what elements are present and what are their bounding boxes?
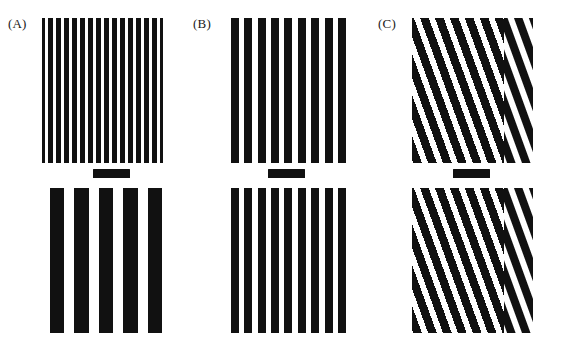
panel-a-label: (A) (8, 16, 27, 32)
panel-b-bottom-grating (227, 188, 348, 333)
panel-a-fixation-bar (93, 169, 130, 178)
panel-c-fixation-bar (453, 169, 490, 178)
panel-c-bottom-grating-shifted-stripes (504, 188, 533, 333)
panel-c-top-grating-shifted-stripes (504, 18, 533, 163)
panel-a-bottom-grating (42, 188, 163, 333)
panel-b-top-grating (227, 18, 348, 163)
panel-c-bottom-grating (412, 188, 533, 333)
panel-b-label: (B) (193, 16, 211, 32)
panel-b-top-stripes (227, 18, 348, 163)
panel-b-fixation-bar (268, 169, 305, 178)
panel-c-top-grating-phase-discontinuity (504, 18, 533, 163)
panel-c-bottom-grating-phase-discontinuity (504, 188, 533, 333)
panel-c-top-grating (412, 18, 533, 163)
panel-a-top-stripes (42, 18, 163, 163)
panel-a-top-grating (42, 18, 163, 163)
figure-root: (A) (B) (C) (0, 0, 562, 342)
panel-b-bottom-stripes (227, 188, 348, 333)
panel-c-label: (C) (378, 16, 396, 32)
panel-a-bottom-stripes (42, 188, 163, 333)
